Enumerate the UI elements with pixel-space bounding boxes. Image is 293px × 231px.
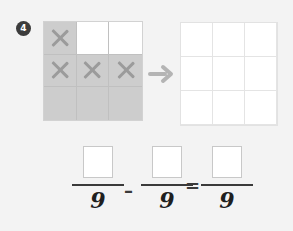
question-number-badge: 4	[16, 21, 31, 36]
left-grid-cell[interactable]	[109, 87, 142, 120]
x-mark-icon	[49, 27, 71, 49]
numerator-input-second[interactable]	[152, 146, 182, 178]
right-grid-cell[interactable]	[245, 91, 277, 125]
right-grid-cell[interactable]	[213, 91, 245, 125]
fraction-first: 9	[72, 146, 124, 213]
x-mark-icon	[49, 59, 71, 81]
x-mark-icon	[81, 59, 103, 81]
left-grid-cell[interactable]	[77, 87, 110, 120]
fraction-equation: 9 – 9 = 9	[0, 146, 293, 226]
left-grid-cell[interactable]	[109, 22, 142, 55]
right-grid-cell[interactable]	[245, 57, 277, 91]
x-mark-icon	[115, 59, 137, 81]
right-grid-cell[interactable]	[181, 57, 213, 91]
numerator-input-first[interactable]	[83, 146, 113, 178]
arrow-right-icon	[148, 63, 176, 85]
left-grid-cell[interactable]	[109, 55, 142, 88]
equals-operator: =	[185, 177, 200, 195]
worksheet-page: 4	[0, 0, 293, 231]
left-grid-cell[interactable]	[44, 55, 77, 88]
right-grid-cell[interactable]	[245, 23, 277, 57]
denominator-third: 9	[201, 187, 253, 213]
fraction-third: 9	[201, 146, 253, 213]
right-grid-cell[interactable]	[181, 23, 213, 57]
left-grid-cell[interactable]	[77, 55, 110, 88]
right-grid-cell[interactable]	[213, 57, 245, 91]
left-grid-cell[interactable]	[44, 22, 77, 55]
right-answer-grid	[180, 22, 278, 126]
right-grid-cell[interactable]	[213, 23, 245, 57]
denominator-first: 9	[72, 187, 124, 213]
numerator-input-third[interactable]	[212, 146, 242, 178]
left-fraction-grid	[43, 21, 143, 121]
fraction-bar	[201, 184, 253, 186]
left-grid-cell[interactable]	[77, 22, 110, 55]
right-grid-cell[interactable]	[181, 91, 213, 125]
left-grid-cell[interactable]	[44, 87, 77, 120]
minus-operator: –	[124, 182, 133, 200]
fraction-bar	[72, 184, 124, 186]
